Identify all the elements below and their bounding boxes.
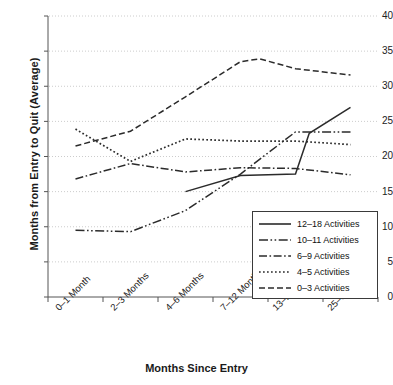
legend-label-10-11: 10–11 Activities [297, 235, 359, 245]
plot-area [0, 0, 393, 385]
legend-item-6-9: 6–9 Activities [258, 248, 373, 264]
data-series [76, 59, 351, 232]
legend-item-12-18: 12–18 Activities [258, 216, 373, 232]
legend-swatch-dotted [258, 267, 292, 277]
legend-item-10-11: 10–11 Activities [258, 232, 373, 248]
legend-item-0-3: 0–3 Activities [258, 280, 373, 296]
legend-swatch-dash-dot [258, 251, 292, 261]
line-chart-figure: Months from Entry to Quit (Average) Mont… [0, 0, 393, 385]
legend-label-12-18: 12–18 Activities [297, 219, 360, 229]
series-line-0 [186, 107, 351, 191]
legend-label-0-3: 0–3 Activities [297, 283, 350, 293]
legend-swatch-solid [258, 219, 292, 229]
chart-legend: 12–18 Activities 10–11 Activities 6–9 Ac… [252, 211, 378, 299]
legend-swatch-dash-dot-dot [258, 235, 292, 245]
series-line-2 [76, 164, 351, 179]
legend-swatch-dashed [258, 283, 292, 293]
legend-label-6-9: 6–9 Activities [297, 251, 350, 261]
legend-item-4-5: 4–5 Activities [258, 264, 373, 280]
legend-label-4-5: 4–5 Activities [297, 267, 350, 277]
